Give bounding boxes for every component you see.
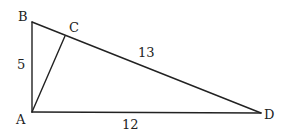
label-point-a: A	[15, 112, 26, 127]
segment-ad	[32, 112, 261, 113]
label-length-bd: 13	[138, 45, 155, 60]
segment-bd	[32, 22, 261, 113]
label-length-ab: 5	[17, 57, 25, 72]
segment-ac	[32, 36, 65, 112]
label-length-ad: 12	[122, 117, 139, 131]
triangle-diagram: B C A D 5 13 12	[0, 0, 287, 131]
label-point-d: D	[264, 107, 274, 122]
label-point-b: B	[18, 9, 28, 24]
label-point-c: C	[69, 20, 79, 35]
